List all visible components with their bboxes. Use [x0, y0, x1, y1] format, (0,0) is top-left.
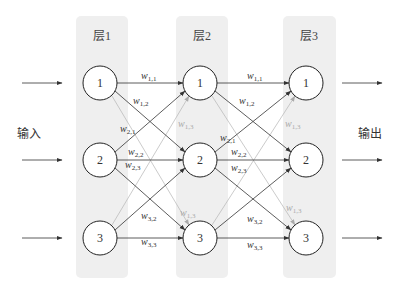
weight-w11-b: w1,1 [247, 70, 263, 83]
weight-w12-a: w1,2 [133, 95, 149, 108]
layer-2-nodes: 1 2 3 [183, 66, 217, 255]
weight-w13-a: w1,3 [178, 118, 194, 131]
weight-w21-b: w2,1 [220, 132, 236, 145]
input-arrows [22, 83, 62, 238]
node-l2-1-label: 1 [197, 76, 203, 90]
node-l3-3-label: 3 [303, 231, 309, 245]
node-l2-2-label: 2 [197, 153, 203, 167]
weight-w32-a: w3,2 [141, 210, 157, 223]
weight-w23-a: w2,3 [125, 159, 141, 172]
layer-1-nodes: 1 2 3 [83, 66, 117, 255]
weight-w11-a: w1,1 [141, 70, 157, 83]
weight-w22-a: w2,2 [128, 146, 144, 159]
node-l2-3-label: 3 [197, 231, 203, 245]
weight-w31-a: w1,3 [180, 207, 196, 220]
weight-w12-b: w1,2 [239, 95, 255, 108]
layer-3-nodes: 1 2 3 [289, 66, 323, 255]
weight-w22-b: w2,2 [231, 146, 247, 159]
node-l1-2-label: 2 [97, 153, 103, 167]
weight-w21-a: w2,1 [120, 123, 136, 136]
weight-w32-b: w3,2 [247, 213, 263, 226]
node-l3-2-label: 2 [303, 153, 309, 167]
network-diagram: 1 2 3 1 2 3 1 2 3 w1,1 w1,2 w1,3 w2,1 w2… [0, 0, 400, 294]
weight-w31-b: w1,3 [286, 202, 302, 215]
node-l3-1-label: 1 [303, 76, 309, 90]
output-arrows [342, 83, 382, 238]
weight-w23-b: w2,3 [231, 162, 247, 175]
node-l1-1-label: 1 [97, 76, 103, 90]
weight-w13-b: w1,3 [285, 118, 301, 131]
node-l1-3-label: 3 [97, 231, 103, 245]
weight-w33-b: w3,3 [247, 239, 263, 252]
